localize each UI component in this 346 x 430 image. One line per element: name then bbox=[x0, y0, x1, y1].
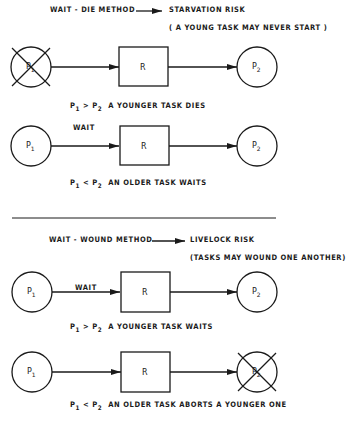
p2-label: P2 bbox=[252, 62, 261, 73]
resource-label: R bbox=[142, 368, 148, 377]
p1-label: P1 bbox=[27, 367, 36, 378]
resource-label: R bbox=[141, 142, 147, 151]
p2-label: P2 bbox=[252, 287, 261, 298]
resource-label: R bbox=[142, 288, 148, 297]
resource-label: R bbox=[140, 63, 146, 72]
p1-label: P1 bbox=[27, 287, 36, 298]
p2-label: P2 bbox=[252, 141, 261, 152]
p1-label: P1 bbox=[26, 141, 35, 152]
